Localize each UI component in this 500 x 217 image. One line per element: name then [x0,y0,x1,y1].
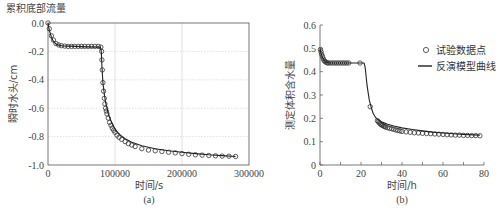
y-tick-label: 0.1 [304,136,317,147]
y-tick-label: -0.6 [28,103,44,114]
legend-marker-icon [423,47,428,52]
legend-label-data-points: 试验数据点 [436,44,486,56]
y-tick-label: -0.8 [28,131,44,142]
y-tick-label: 0.0 [32,18,45,29]
chart-b-legend: 试验数据点 反演模型曲线 [418,44,496,72]
y-tick-label: -1.0 [28,160,44,171]
x-tick-label: 100000 [100,168,130,179]
chart-b-y-label: 测定体积含水量 [284,60,296,130]
panel-a: 累积底部流量 0.0-0.2-0.4-0.6-0.8-1.0 010000020… [6,2,264,206]
x-tick-label: 0 [46,168,51,179]
x-tick-label: 300000 [234,168,264,179]
x-tick-label: 80 [479,168,489,179]
y-tick-label: 0.4 [304,66,317,77]
data-point-marker [207,153,211,157]
y-tick-label: -0.4 [28,74,44,85]
chart-a-panel-label: (a) [143,194,154,206]
x-tick-label: 20 [356,168,366,179]
chart-a-series [46,21,238,159]
chart-b-panel-label: (b) [396,194,408,206]
y-tick-label: 0 [311,160,316,171]
y-tick-label: 0.2 [304,113,317,124]
data-point-marker [140,147,144,151]
figure: 累积底部流量 0.0-0.2-0.4-0.6-0.8-1.0 010000020… [0,0,500,217]
y-tick-label: -0.2 [28,46,44,57]
x-tick-label: 40 [397,168,407,179]
y-tick-label: 0.6 [304,20,317,31]
chart-a-x-ticks: 0100000200000300000 [46,168,265,179]
data-point-marker [146,148,150,152]
chart-a-y-ticks: 0.0-0.2-0.4-0.6-0.8-1.0 [28,18,44,171]
chart-a-x-label: 时间/s [135,179,164,191]
x-tick-label: 200000 [167,168,197,179]
legend-label-model-curve: 反演模型曲线 [436,60,496,72]
chart-a-y-label: 瞬时水头/cm [7,65,19,124]
x-tick-label: 0 [318,168,323,179]
chart-a-title: 累积底部流量 [6,2,66,14]
y-tick-label: 0.5 [304,43,317,54]
chart-b-x-ticks: 020406080 [318,168,490,179]
y-tick-label: 0.3 [304,90,317,101]
chart-b-y-ticks: 00.10.20.30.40.50.6 [304,20,317,171]
x-tick-label: 60 [438,168,448,179]
chart-b-x-label: 时间/h [387,179,417,191]
panel-b: 00.10.20.30.40.50.6 020406080 测定体积含水量 时间… [284,20,496,207]
